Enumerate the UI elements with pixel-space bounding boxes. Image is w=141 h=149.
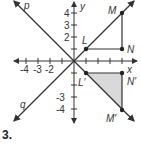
label-M: M — [108, 5, 117, 16]
label-p: p — [23, 0, 30, 11]
label-q: q — [20, 99, 26, 110]
svg-text:-3: -3 — [56, 92, 65, 103]
svg-text:-3: -3 — [33, 64, 42, 75]
label-M-prime: M′ — [106, 113, 117, 124]
label-L-prime: L′ — [78, 77, 87, 88]
svg-text:-4: -4 — [56, 104, 65, 115]
svg-text:2: 2 — [64, 32, 70, 43]
svg-text:-2: -2 — [45, 64, 54, 75]
label-x: x — [126, 64, 133, 75]
coordinate-plane: p q y x 4 3 2 -3 -4 -4 -3 -2 L M N L′ N′… — [0, 0, 141, 149]
svg-text:3: 3 — [64, 20, 70, 31]
label-y: y — [79, 1, 86, 12]
label-N-prime: N′ — [127, 76, 137, 87]
problem-number: 3. — [2, 128, 12, 142]
svg-text:4: 4 — [64, 8, 70, 19]
svg-text:-4: -4 — [20, 64, 29, 75]
label-N: N — [127, 44, 135, 55]
label-L: L — [82, 35, 88, 46]
